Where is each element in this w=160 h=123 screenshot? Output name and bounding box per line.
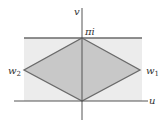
left-vertex-subscript: 2 — [17, 70, 21, 78]
diagram-canvas: v u πi w2 w1 — [0, 0, 160, 123]
top-vertex-label: πi — [84, 26, 95, 37]
right-vertex-subscript: 1 — [155, 70, 159, 78]
v-axis-label: v — [74, 6, 80, 17]
left-vertex-label: w2 — [8, 65, 21, 78]
u-axis-label: u — [149, 95, 155, 106]
right-vertex-label: w1 — [146, 65, 159, 78]
